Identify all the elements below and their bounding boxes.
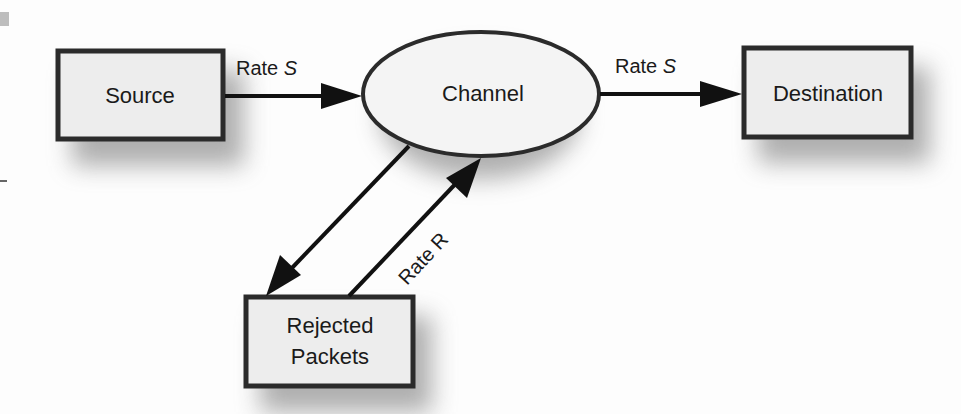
- channel-node: Channel: [363, 32, 599, 156]
- page-margin-mark: [0, 12, 9, 26]
- edge-rejected-to-channel: Rate R: [349, 158, 481, 296]
- source-label: Source: [105, 83, 175, 108]
- rejected-packets-label-line1: Rejected: [287, 313, 374, 338]
- rejected-packets-box: [246, 297, 413, 386]
- rejected-packets-label-line2: Packets: [291, 344, 369, 369]
- destination-node: Destination: [744, 48, 911, 137]
- rejected-packets-node: Rejected Packets: [246, 297, 413, 386]
- edge-label-prefix: Rate: [615, 55, 663, 77]
- destination-label: Destination: [773, 81, 883, 106]
- network-flow-diagram: Source Channel Destination Rejected Pack…: [0, 0, 961, 414]
- edge-label-var: S: [284, 57, 298, 79]
- channel-label: Channel: [442, 81, 524, 106]
- source-node: Source: [58, 51, 223, 139]
- edge-label-rate-s-1: Rate S: [236, 57, 298, 79]
- edge-label-var: S: [663, 55, 677, 77]
- arrowhead-icon: [700, 81, 742, 107]
- edge-channel-to-rejected: [266, 146, 409, 296]
- edge-channel-to-destination: Rate S: [600, 55, 742, 107]
- edge-source-to-channel: Rate S: [225, 57, 362, 109]
- arrowhead-icon: [321, 83, 362, 109]
- edge-label-prefix: Rate: [236, 57, 284, 79]
- edge-label-rate-s-2: Rate S: [615, 55, 677, 77]
